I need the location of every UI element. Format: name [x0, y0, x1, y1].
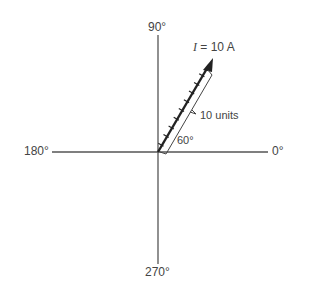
phasor-label: I = 10 A: [193, 40, 235, 55]
length-label: 10 units: [200, 109, 239, 121]
label-180: 180°: [24, 144, 49, 158]
current-value: = 10 A: [197, 40, 235, 54]
label-270: 270°: [145, 265, 170, 279]
arrowhead-icon: [203, 58, 213, 72]
label-0: 0°: [272, 144, 283, 158]
angle-label: 60°: [177, 134, 194, 146]
label-90: 90°: [148, 20, 166, 34]
